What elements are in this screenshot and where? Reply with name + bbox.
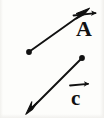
vector-figure: A c — [0, 0, 104, 118]
vector-c-arrowhead — [26, 102, 38, 115]
vector-a-label: A — [76, 16, 92, 41]
vector-c-label: c — [71, 86, 80, 110]
vector-diagram-canvas: A c — [0, 0, 104, 118]
vector-c-tail-dot — [79, 55, 85, 61]
vector-c-label-group: c — [70, 81, 89, 110]
vector-a-label-group: A — [74, 11, 97, 41]
vector-a-tail-dot — [26, 49, 32, 55]
